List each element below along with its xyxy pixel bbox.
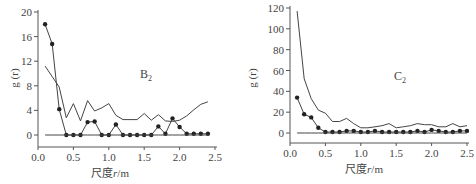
data-point: [352, 129, 356, 133]
x-tick-label: 2.5: [208, 151, 222, 163]
x-axis-label: 尺度r/m: [345, 162, 383, 175]
x-tick-label: 2.0: [173, 151, 187, 163]
data-point: [50, 42, 54, 46]
data-point: [57, 107, 61, 111]
chart-c2: 0204060801001200.00.51.01.52.02.5g (r)尺度…: [236, 0, 476, 184]
data-point: [295, 95, 299, 99]
x-tick-label: 1.0: [102, 151, 116, 163]
y-tick-label: 80: [273, 44, 285, 56]
y-tick-label: 60: [273, 65, 285, 77]
data-point: [170, 116, 174, 120]
series-line-1: [297, 11, 467, 128]
data-point: [114, 122, 118, 126]
y-axis-label: g (r): [246, 68, 259, 88]
x-tick-label: 1.0: [354, 147, 368, 159]
chart-b2: 0481216200.00.51.01.52.02.5g (r)尺度r/mB2: [0, 0, 236, 184]
x-tick-label: 2.5: [460, 147, 474, 159]
x-tick-label: 2.0: [425, 147, 439, 159]
data-point: [309, 115, 313, 119]
data-point: [429, 128, 433, 132]
y-tick-label: 20: [273, 106, 285, 118]
data-point: [85, 120, 89, 124]
y-tick-label: 120: [268, 2, 285, 14]
y-tick-label: 8: [27, 80, 33, 92]
data-point: [177, 125, 181, 129]
data-point: [316, 126, 320, 130]
x-tick-label: 1.5: [137, 151, 151, 163]
y-tick-label: 0: [27, 129, 33, 141]
x-tick-label: 1.5: [389, 147, 403, 159]
y-axis-label: g (r): [8, 68, 21, 88]
y-tick-label: 16: [21, 31, 33, 43]
data-point: [458, 129, 462, 133]
chart-c2-plot: 0204060801001200.00.51.01.52.02.5g (r)尺度…: [236, 0, 476, 184]
data-point: [43, 22, 47, 26]
series-line-1: [45, 66, 208, 121]
x-tick-label: 0.0: [31, 151, 45, 163]
y-tick-label: 40: [273, 85, 285, 97]
x-tick-label: 0.0: [283, 147, 297, 159]
panel-label: B2: [140, 67, 152, 83]
x-tick-label: 0.5: [319, 147, 333, 159]
data-point: [302, 112, 306, 116]
data-point: [156, 124, 160, 128]
x-axis-label: 尺度r/m: [91, 166, 129, 179]
data-point: [92, 119, 96, 123]
data-point: [415, 129, 419, 133]
y-tick-label: 0: [279, 127, 285, 139]
data-point: [436, 129, 440, 133]
y-tick-label: 20: [21, 6, 33, 18]
y-tick-label: 12: [21, 55, 32, 67]
chart-b2-plot: 0481216200.00.51.01.52.02.5g (r)尺度r/mB2: [0, 0, 236, 184]
x-tick-label: 0.5: [67, 151, 81, 163]
data-point: [344, 129, 348, 133]
y-tick-label: 100: [268, 23, 285, 35]
data-point: [465, 129, 469, 133]
y-tick-label: 4: [27, 104, 33, 116]
panel-label: C2: [394, 69, 406, 85]
data-point: [373, 129, 377, 133]
